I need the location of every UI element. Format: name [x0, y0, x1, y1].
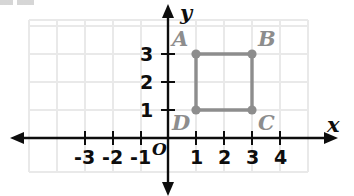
- y-tick-label-3: 3: [140, 45, 153, 64]
- y-axis-arrow-down: [162, 182, 174, 196]
- x-axis-arrow-left: [10, 132, 24, 144]
- vertex-point-a: [191, 49, 200, 58]
- x-tick-label-1: 1: [190, 148, 203, 167]
- x-tick-label--2: -2: [102, 148, 123, 167]
- origin-label: O: [152, 141, 167, 158]
- x-tick-label--1: -1: [130, 148, 151, 167]
- vertex-point-c: [247, 105, 256, 114]
- x-tick-label--3: -3: [74, 148, 95, 167]
- x-tick-label-3: 3: [246, 148, 259, 167]
- y-tick-label-1: 1: [140, 101, 153, 120]
- y-axis-arrow-up: [162, 4, 174, 18]
- vertex-point-b: [247, 49, 256, 58]
- x-tick-label-2: 2: [218, 148, 231, 167]
- coordinate-plane-figure: y x O -3 -2 -1 1 2 3 4 3 2 1 A B C D: [0, 0, 354, 196]
- vertex-label-a: A: [172, 28, 188, 49]
- x-tick-label-4: 4: [274, 148, 287, 167]
- vertex-label-c: C: [258, 112, 275, 133]
- vertex-label-b: B: [258, 28, 276, 49]
- vertex-point-d: [191, 105, 200, 114]
- y-tick-label-2: 2: [140, 73, 153, 92]
- x-axis-label: x: [327, 114, 340, 135]
- vertex-label-d: D: [172, 112, 190, 133]
- y-axis-label: y: [180, 2, 192, 23]
